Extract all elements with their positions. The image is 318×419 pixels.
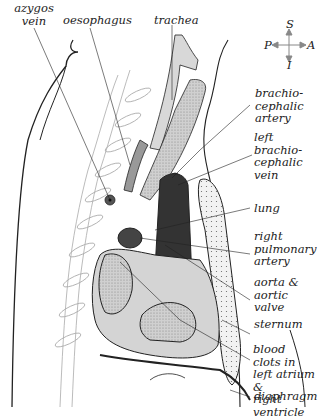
label-lung: lung	[254, 202, 280, 215]
label-diaphragm: diaphragm	[254, 390, 317, 403]
orientation-superior: S	[286, 18, 294, 31]
back-outline	[12, 40, 78, 407]
label-brachiocephalic-artery: brachio- cephalic artery	[255, 87, 304, 125]
label-left-brachiocephalic-vein: left brachio- cephalic vein	[254, 131, 303, 181]
label-blood-clots: blood clots in left atrium & right ventr…	[253, 343, 316, 418]
right-pulmonary-artery-shape	[118, 228, 142, 248]
orientation-anterior: A	[307, 39, 315, 52]
label-sternum: sternum	[254, 318, 303, 331]
label-right-pulmonary-artery: right pulmonary artery	[254, 230, 317, 268]
orientation-posterior: P	[264, 39, 272, 52]
label-aorta-aortic-valve: aorta & aortic valve	[254, 276, 299, 314]
label-azygos-vein: azygos vein	[14, 2, 54, 27]
label-trachea: trachea	[154, 14, 198, 27]
label-oesophagus: oesophagus	[63, 14, 132, 27]
orientation-inferior: I	[287, 59, 292, 72]
